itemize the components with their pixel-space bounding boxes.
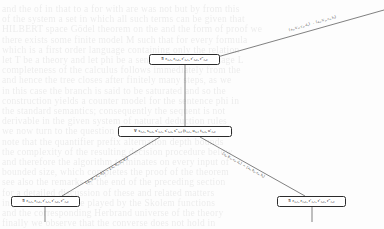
edge-top-right (219, 10, 384, 57)
node-top[interactable]: ∃ r₄,₁, r₄,₂, r′₄,₁, r′₄,₂, r″₄,₂ (149, 54, 220, 65)
node-bottom-right[interactable]: ∃ r₄,₁, r₄,₂, r′₄,₁, r′₄,₂, r″₄,₂ (277, 196, 346, 207)
edge-layer (0, 0, 384, 229)
node-bottom-left-label: ∃ r₄,₁, r₄,₂, r′₄,₁, r′₄,₂, r″₄,₂ (22, 199, 68, 203)
node-bottom-left[interactable]: ∃ r₄,₁, r₄,₂, r′₄,₁, r′₄,₂, r″₄,₂ (11, 196, 80, 207)
node-top-label: ∃ r₄,₁, r₄,₂, r′₄,₁, r′₄,₂, r″₄,₂ (161, 57, 207, 61)
node-middle[interactable]: ∀ s₄,₁, s₄,₂, s′₄,₁, s′₄,₂, s″₄,₂ (t₄,₁,… (118, 126, 232, 137)
edge-middle-to-right (200, 137, 305, 196)
node-bottom-right-label: ∃ r₄,₁, r₄,₂, r′₄,₁, r′₄,₂, r″₄,₂ (288, 199, 334, 203)
diagram-canvas: and the of in that to a for with are was… (0, 0, 384, 229)
node-middle-label: ∀ s₄,₁, s₄,₂, s′₄,₁, s′₄,₂, s″₄,₂ (t₄,₁,… (134, 129, 215, 133)
